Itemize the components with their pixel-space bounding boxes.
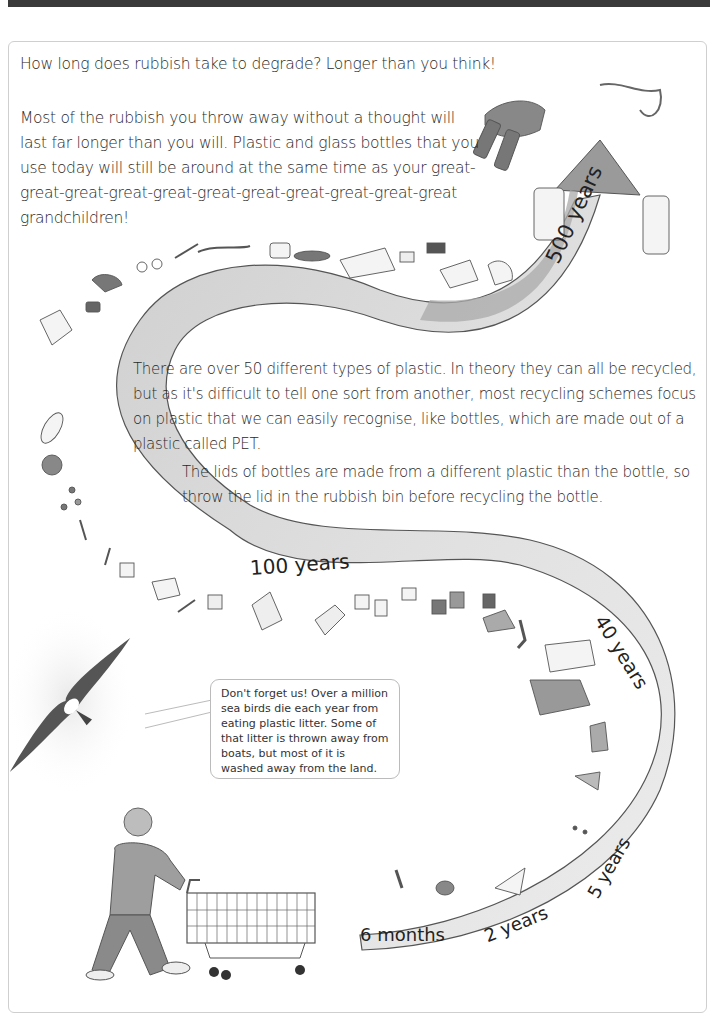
plastic-bag-icon: [590, 722, 608, 752]
yoghurt-pot-icon: [120, 563, 134, 577]
apple-core-icon: [396, 870, 402, 888]
drink-carton-icon: [252, 592, 282, 630]
orange-peel-icon: [436, 881, 454, 895]
boy-with-trolley-icon: [86, 808, 315, 980]
sock-icon: [518, 620, 525, 648]
label-6-months: 6 months: [360, 924, 445, 945]
speech-bubble: Don't forget us! Over a million sea bird…: [210, 679, 400, 779]
page-headline: How long does rubbish take to degrade? L…: [20, 55, 496, 73]
banana-peel-icon: [495, 868, 525, 895]
intro-paragraph: Most of the rubbish you throw away witho…: [20, 106, 480, 231]
plastic-bottle-icon: [643, 196, 669, 254]
flip-flop-icon: [37, 409, 68, 446]
ball-icon: [42, 455, 62, 475]
spoon-icon: [105, 548, 110, 565]
fork-icon: [80, 520, 86, 540]
striped-shirt-icon: [545, 640, 595, 672]
trousers-icon: [530, 680, 590, 715]
timeline-band: [117, 195, 675, 950]
plastic-types-paragraph: There are over 50 different types of pla…: [133, 357, 708, 457]
shoe-icon: [483, 610, 515, 632]
nappy-icon: [575, 772, 600, 790]
bottle-lids-paragraph: The lids of bottles are made from a diff…: [182, 460, 702, 510]
